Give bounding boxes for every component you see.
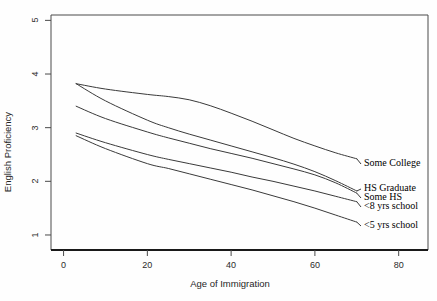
series-curve-8-yrs-school [76, 133, 357, 202]
label-leader-lines [357, 159, 361, 226]
x-axis-title: Age of Immigration [150, 278, 310, 289]
series-curve-some-hs [76, 106, 357, 193]
x-tick-label-60: 60 [300, 260, 330, 270]
y-tick-label-1: 1 [29, 229, 41, 241]
x-tick-label-0: 0 [49, 260, 79, 270]
ticks-group [45, 20, 399, 256]
y-axis-title-wrap: English Proficiency [2, 92, 16, 212]
plot-frame [51, 15, 428, 250]
x-tick-label-40: 40 [216, 260, 246, 270]
leader-line-1 [357, 159, 361, 164]
series-label-some-college: Some College [364, 157, 420, 168]
y-tick-label-wrap-1: 1 [29, 229, 41, 241]
leader-line-5 [357, 222, 361, 226]
y-tick-label-wrap-2: 2 [29, 175, 41, 187]
data-curves-group [76, 84, 357, 222]
y-tick-label-wrap-3: 3 [29, 122, 41, 134]
y-tick-label-3: 3 [29, 122, 41, 134]
series-label-8-yrs-school: <8 yrs school [364, 200, 418, 211]
series-curve-5-yrs-school [76, 136, 357, 222]
x-tick-label-80: 80 [384, 260, 414, 270]
y-tick-label-4: 4 [29, 68, 41, 80]
chart-figure: English Proficiency Age of Immigration 0… [0, 0, 437, 301]
y-tick-label-5: 5 [29, 14, 41, 26]
series-label-5-yrs-school: <5 yrs school [364, 219, 418, 230]
leader-line-3 [357, 193, 361, 198]
y-axis-title: English Proficiency [2, 92, 16, 212]
y-tick-label-wrap-4: 4 [29, 68, 41, 80]
leader-line-2 [357, 189, 361, 191]
x-tick-label-20: 20 [132, 260, 162, 270]
y-tick-label-wrap-5: 5 [29, 14, 41, 26]
axes-group [51, 15, 428, 250]
leader-line-4 [357, 202, 361, 207]
series-curve-some-college [76, 84, 357, 159]
chart-canvas [0, 0, 437, 301]
y-tick-label-2: 2 [29, 175, 41, 187]
